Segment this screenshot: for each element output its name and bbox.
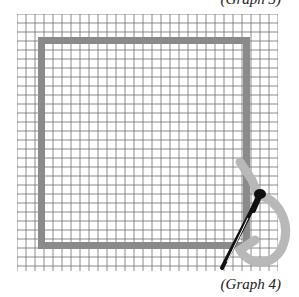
pen-drawing-loop-icon <box>200 150 299 297</box>
previous-graph-caption: (Graph 3) <box>221 0 281 8</box>
graph-caption: (Graph 4) <box>221 276 281 293</box>
